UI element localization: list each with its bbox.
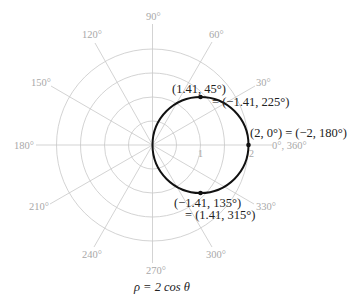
radius-label-1: 1 (198, 148, 203, 159)
angle-label-210: 210° (29, 201, 49, 212)
ray-120 (95, 43, 153, 145)
angle-label-330: 330° (256, 201, 276, 212)
point-label-45-line1: (1.41, 45°) (172, 82, 226, 96)
angle-label-180: 180° (14, 140, 34, 151)
angle-label-120: 120° (82, 29, 102, 40)
point-label-45-line2: = (−1.41, 225°) (212, 95, 289, 109)
angle-label-90: 90° (146, 11, 161, 22)
angle-label-60: 60° (209, 29, 224, 40)
angle-label-0: 0°, 360° (272, 140, 307, 151)
polar-grid-rays (36, 24, 272, 263)
point-label-135-line2: = (1.41, 315°) (185, 208, 255, 222)
angle-label-150: 150° (31, 77, 51, 88)
ray-150 (51, 86, 153, 145)
polar-plot: 0°, 360° 30° 60° 90° 120° 150° 180° 210°… (0, 0, 362, 308)
equation-caption: ρ = 2 cos θ (133, 280, 190, 294)
angle-label-270: 270° (146, 265, 166, 276)
point-label-0: (2, 0°) = (−2, 180°) (250, 126, 347, 140)
point-135-deg (198, 191, 203, 196)
angle-label-240: 240° (82, 249, 102, 260)
ray-240 (94, 145, 153, 247)
angle-labels: 0°, 360° 30° 60° 90° 120° 150° 180° 210°… (14, 11, 307, 276)
angle-label-30: 30° (256, 77, 271, 88)
point-0-deg (246, 143, 251, 148)
radius-label-2: 2 (249, 148, 254, 159)
angle-label-300: 300° (206, 249, 226, 260)
